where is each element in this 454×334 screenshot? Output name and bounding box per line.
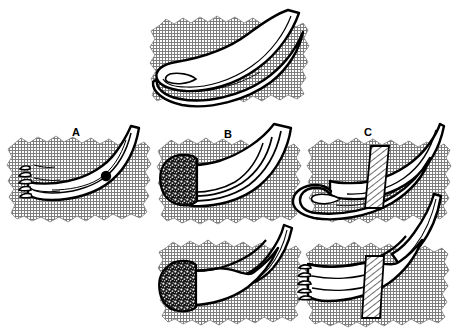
figure-canvas: A B [0,0,454,334]
stippled-bulb-end [160,155,197,205]
panel-label-b: B [224,128,232,140]
panel-label-c: C [364,126,372,138]
stippled-bulb-end [159,261,196,311]
hatched-band [362,256,384,318]
panel-top [150,10,309,106]
marker-dot [101,171,111,181]
panel-label-a: A [72,126,80,138]
anatomical-figure: A B [0,0,454,334]
